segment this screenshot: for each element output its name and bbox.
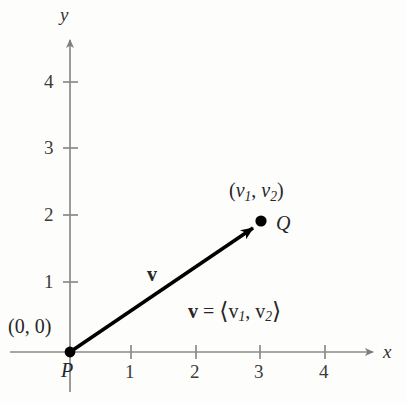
origin-coordinate-label: (0, 0) [8, 316, 51, 336]
equation-equals: = [198, 300, 219, 322]
point-p-label: P [61, 360, 73, 380]
equation-lhs-v: v [188, 300, 198, 322]
y-axis-label: y [60, 5, 68, 24]
angle-bracket-open: ⟨ [219, 298, 228, 324]
vector-component-equation: v = ⟨v1, v2⟩ [188, 300, 281, 324]
equation-v1: v [229, 300, 239, 322]
terminal-coordinate-label: (v1, v2) [229, 180, 284, 203]
x-axis-label: x [383, 342, 391, 361]
coordinate-plane-svg [0, 0, 407, 404]
y-tick-label-3: 3 [44, 138, 54, 157]
point-p-dot [65, 347, 76, 358]
equation-v2: v [255, 300, 265, 322]
x-tick-label-2: 2 [190, 362, 200, 381]
coord-v1: v [236, 179, 245, 201]
vector-v-label: v [147, 264, 157, 284]
paren-open: ( [229, 179, 236, 201]
coord-comma: , [251, 179, 261, 201]
paren-close: ) [277, 179, 284, 201]
angle-bracket-close: ⟩ [272, 298, 281, 324]
y-tick-label-2: 2 [44, 205, 54, 224]
x-tick-label-1: 1 [125, 362, 135, 381]
coord-v2: v [261, 179, 270, 201]
point-q-label: Q [276, 213, 290, 233]
y-tick-label-1: 1 [44, 272, 54, 291]
y-tick-label-4: 4 [44, 72, 54, 91]
vector-v-arrow [70, 228, 253, 352]
vector-diagram-figure: y x 1 2 3 4 1 2 3 4 (0, 0) P (v1, v2) Q … [0, 0, 407, 404]
equation-comma: , [245, 300, 255, 322]
x-tick-label-4: 4 [319, 362, 329, 381]
x-tick-label-3: 3 [254, 362, 264, 381]
point-q-dot [255, 215, 266, 226]
